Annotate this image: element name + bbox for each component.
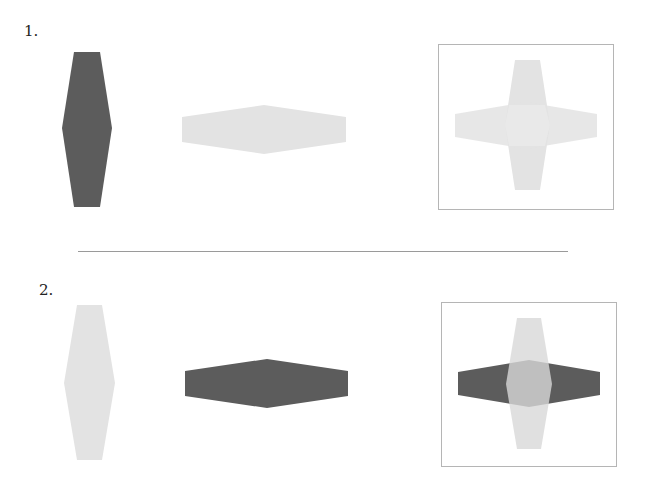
- horizontal-hexagon-light: [182, 105, 346, 154]
- vertical-hexagon-light: [64, 305, 115, 460]
- horizontal-hexagon-dark: [185, 359, 348, 408]
- overlap-region-1: [505, 105, 550, 146]
- vertical-hexagon-dark: [62, 52, 112, 207]
- diagram-canvas: [0, 0, 668, 487]
- combined-vertical-hexagon-translucent: [506, 318, 552, 449]
